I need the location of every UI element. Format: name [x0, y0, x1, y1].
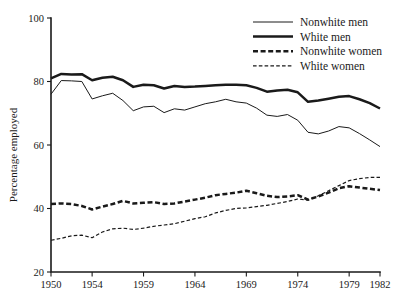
x-tick-label: 1982 [370, 279, 391, 290]
x-tick-label: 1964 [184, 279, 206, 290]
series-line [51, 177, 380, 240]
x-tick-label: 1979 [339, 279, 360, 290]
legend-label: White women [300, 60, 365, 72]
x-axis-ticks: 19501954195919641969197419791982 [41, 272, 391, 290]
x-tick-label: 1950 [41, 279, 62, 290]
employment-trend-chart: Percentage employed 20406080100 19501954… [0, 0, 403, 305]
y-tick-label: 40 [34, 203, 45, 214]
y-tick-label: 100 [28, 13, 44, 24]
x-tick-label: 1969 [236, 279, 257, 290]
legend-label: Nonwhite women [300, 45, 382, 57]
legend-label: Nonwhite men [300, 16, 368, 28]
y-tick-label: 20 [34, 267, 45, 278]
x-tick-label: 1954 [82, 279, 104, 290]
series-line [51, 74, 380, 109]
y-axis-title-label: Percentage employed [7, 107, 19, 202]
chart-canvas: Percentage employed 20406080100 19501954… [0, 0, 403, 305]
x-tick-label: 1974 [287, 279, 309, 290]
chart-legend: Nonwhite menWhite menNonwhite womenWhite… [253, 16, 382, 72]
x-tick-label: 1959 [133, 279, 154, 290]
y-axis-ticks: 20406080100 [28, 13, 51, 278]
y-tick-label: 80 [34, 76, 45, 87]
series-line [51, 81, 380, 147]
series-line [51, 186, 380, 209]
data-series-group [51, 74, 380, 240]
y-tick-label: 60 [34, 140, 45, 151]
y-axis-title: Percentage employed [7, 107, 19, 202]
legend-label: White men [300, 31, 351, 43]
